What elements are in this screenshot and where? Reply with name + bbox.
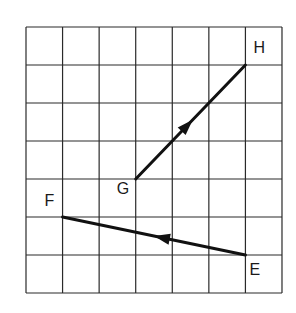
vector-grid-diagram: HGFE [0,0,296,313]
point-label-e: E [249,261,260,278]
point-label-g: G [117,180,129,197]
point-label-f: F [45,192,55,209]
vectors [63,65,246,255]
point-label-h: H [253,39,265,56]
